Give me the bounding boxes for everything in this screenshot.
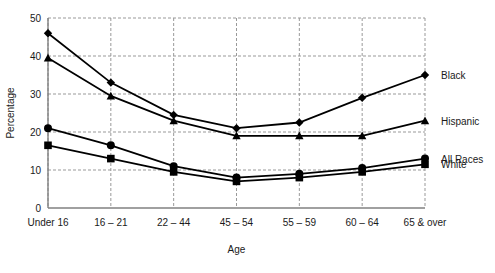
data-point-hispanic-0 <box>44 54 52 62</box>
data-point-black-5 <box>358 94 366 102</box>
data-point-all-races-0 <box>44 124 52 132</box>
data-point-white-1 <box>107 155 115 163</box>
data-point-white-4 <box>296 174 304 182</box>
data-point-white-3 <box>233 178 241 186</box>
x-tick-label-6: 65 & over <box>404 217 447 228</box>
legend-label-hispanic: Hispanic <box>441 116 479 127</box>
data-point-hispanic-6 <box>421 116 429 124</box>
x-tick-label-3: 45 – 54 <box>220 217 254 228</box>
legend-label-white: White <box>441 159 467 170</box>
y-tick-label-0: 0 <box>35 203 41 214</box>
x-tick-label-5: 60 – 64 <box>345 217 379 228</box>
y-axis-title: Percentage <box>5 87 16 139</box>
x-tick-label-1: 16 – 21 <box>94 217 128 228</box>
data-point-all-races-1 <box>107 141 115 149</box>
data-point-black-3 <box>232 124 240 132</box>
data-point-white-2 <box>170 168 178 176</box>
data-point-black-6 <box>421 71 429 79</box>
y-tick-label-20: 20 <box>30 127 42 138</box>
data-point-white-5 <box>358 168 366 176</box>
y-tick-label-30: 30 <box>30 89 42 100</box>
x-tick-label-4: 55 – 59 <box>283 217 317 228</box>
y-tick-label-40: 40 <box>30 51 42 62</box>
data-point-white-6 <box>421 161 429 169</box>
y-tick-label-10: 10 <box>30 165 42 176</box>
line-chart: 01020304050Under 1616 – 2122 – 4445 – 54… <box>0 0 495 273</box>
legend-label-black: Black <box>441 70 466 81</box>
data-point-white-0 <box>44 142 52 150</box>
data-point-hispanic-1 <box>107 92 115 100</box>
x-axis-title: Age <box>228 244 246 255</box>
chart-container: 01020304050Under 1616 – 2122 – 4445 – 54… <box>0 0 495 273</box>
x-tick-label-2: 22 – 44 <box>157 217 191 228</box>
x-tick-label-0: Under 16 <box>27 217 69 228</box>
y-tick-label-50: 50 <box>30 13 42 24</box>
data-point-black-4 <box>295 118 303 126</box>
